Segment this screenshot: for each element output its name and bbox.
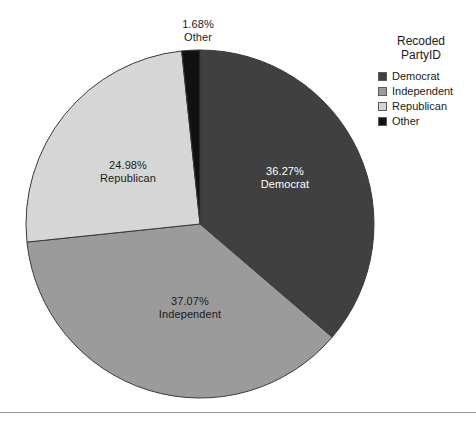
legend-item-list: DemocratIndependentRepublicanOther bbox=[378, 69, 474, 128]
legend-title-line-1: Recoded bbox=[368, 34, 474, 48]
pie-chart-figure: 36.27%Democrat37.07%Independent24.98%Rep… bbox=[0, 0, 476, 426]
legend-swatch-icon-other bbox=[378, 117, 387, 126]
legend-item-independent[interactable]: Independent bbox=[378, 84, 474, 98]
footer-divider bbox=[0, 412, 476, 413]
legend-label-independent: Independent bbox=[392, 85, 453, 97]
legend-item-republican[interactable]: Republican bbox=[378, 99, 474, 113]
legend-item-other[interactable]: Other bbox=[378, 114, 474, 128]
legend-label-other: Other bbox=[392, 115, 420, 127]
legend-label-republican: Republican bbox=[392, 100, 447, 112]
legend-swatch-icon-democrat bbox=[378, 72, 387, 81]
legend-item-democrat[interactable]: Democrat bbox=[378, 69, 474, 83]
legend-label-democrat: Democrat bbox=[392, 70, 440, 82]
legend-title-line-2: PartyID bbox=[368, 48, 474, 62]
pie-slice-republican[interactable] bbox=[26, 51, 200, 242]
legend-swatch-icon-republican bbox=[378, 102, 387, 111]
legend-title: Recoded PartyID bbox=[368, 34, 474, 62]
legend-swatch-icon-independent bbox=[378, 87, 387, 96]
chart-legend: Recoded PartyID DemocratIndependentRepub… bbox=[368, 34, 474, 129]
pie-slice-group bbox=[26, 50, 374, 398]
